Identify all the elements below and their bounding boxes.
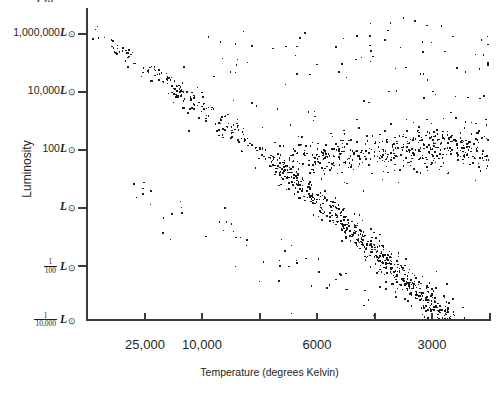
data-point xyxy=(127,57,129,59)
data-point xyxy=(279,265,281,267)
data-point xyxy=(399,271,401,273)
data-point xyxy=(348,225,350,227)
data-point xyxy=(392,147,394,149)
data-point xyxy=(222,137,224,139)
data-point xyxy=(243,31,245,33)
data-point xyxy=(235,237,237,239)
data-point xyxy=(409,162,411,164)
data-point xyxy=(446,314,448,316)
data-point xyxy=(291,181,293,183)
data-point xyxy=(370,50,372,52)
data-point xyxy=(219,221,221,223)
data-point xyxy=(430,310,432,312)
data-point xyxy=(394,264,396,266)
data-point xyxy=(326,215,328,217)
data-point xyxy=(344,208,346,210)
data-point xyxy=(460,141,462,143)
data-point xyxy=(300,181,302,183)
data-point xyxy=(311,195,313,197)
data-point xyxy=(323,170,325,172)
data-point xyxy=(322,209,324,211)
data-point xyxy=(394,137,396,139)
data-point xyxy=(376,251,378,253)
data-point xyxy=(412,273,414,275)
data-point xyxy=(371,251,373,253)
data-point xyxy=(340,140,342,142)
data-point xyxy=(427,317,429,319)
data-point xyxy=(291,172,293,174)
data-point xyxy=(218,122,220,124)
data-point xyxy=(452,298,454,300)
data-point xyxy=(332,205,334,207)
data-point xyxy=(390,123,392,125)
data-point xyxy=(180,86,182,88)
data-point xyxy=(247,145,249,147)
data-point xyxy=(387,263,389,265)
data-point xyxy=(420,283,422,285)
data-point xyxy=(465,121,467,123)
data-point xyxy=(333,162,335,164)
data-point xyxy=(336,217,338,219)
data-point xyxy=(149,67,151,69)
data-point xyxy=(265,149,267,151)
data-point xyxy=(282,178,284,180)
data-point xyxy=(403,17,405,19)
data-point xyxy=(247,62,249,64)
data-point xyxy=(365,158,367,160)
data-point xyxy=(343,38,345,40)
x-axis-title-text: Temperature (degrees Kelvin) xyxy=(200,366,338,378)
data-point xyxy=(416,294,418,296)
data-point xyxy=(282,162,284,164)
data-point xyxy=(396,281,398,283)
data-point xyxy=(413,168,415,170)
data-point xyxy=(231,130,233,132)
data-point xyxy=(318,258,320,260)
data-point xyxy=(451,149,453,151)
data-point xyxy=(297,191,299,193)
data-point xyxy=(433,160,435,162)
data-point xyxy=(426,166,428,168)
data-point xyxy=(332,136,334,138)
data-point xyxy=(202,96,204,98)
data-point xyxy=(404,265,406,267)
data-point xyxy=(375,237,377,239)
data-point xyxy=(354,230,356,232)
data-point xyxy=(297,161,299,163)
data-point xyxy=(369,255,371,257)
data-point xyxy=(244,139,246,141)
data-point xyxy=(435,136,437,138)
data-point xyxy=(405,258,407,260)
data-point xyxy=(361,239,363,241)
data-point xyxy=(441,25,443,27)
data-point xyxy=(316,154,318,156)
data-point xyxy=(309,172,311,174)
data-point xyxy=(270,165,272,167)
data-point xyxy=(368,152,370,154)
y-tick-2 xyxy=(78,149,86,151)
data-point xyxy=(380,253,382,255)
data-point xyxy=(441,309,443,311)
data-point xyxy=(394,164,396,166)
data-point xyxy=(309,74,311,76)
data-point xyxy=(208,115,210,117)
data-point xyxy=(439,169,441,171)
data-point xyxy=(351,221,353,223)
data-point xyxy=(323,149,325,151)
data-point xyxy=(420,172,422,174)
data-point xyxy=(283,145,285,147)
data-point xyxy=(309,197,311,199)
data-point xyxy=(236,123,238,125)
data-point xyxy=(442,131,444,133)
data-point xyxy=(439,305,441,307)
data-point xyxy=(281,168,283,170)
data-point xyxy=(456,143,458,145)
data-point xyxy=(354,213,356,215)
data-point xyxy=(275,171,277,173)
y-tick-label-4: 1100 L⊙ xyxy=(44,259,75,276)
data-point xyxy=(431,123,433,125)
data-point xyxy=(478,166,480,168)
data-point xyxy=(329,169,331,171)
data-point xyxy=(387,154,389,156)
data-point xyxy=(399,284,401,286)
data-point xyxy=(370,266,372,268)
